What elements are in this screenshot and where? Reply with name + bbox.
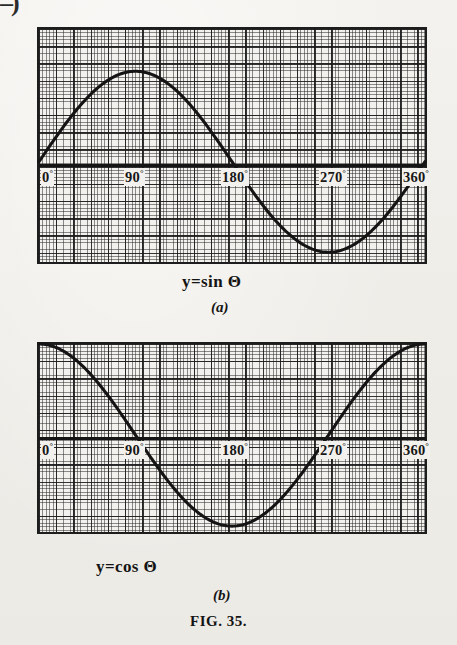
equation-caption-cosine: y=cos Θ — [96, 557, 157, 577]
tick-label-180-sine: 180° — [221, 168, 249, 186]
chart-cosine-panel: 0° 90° 180° 270° 360° — [37, 342, 427, 534]
chart-sine-panel: 0° 90° 180° 270° 360° — [37, 27, 427, 264]
tick-label-0-sine: 0° — [41, 168, 54, 186]
tick-label-360-sine: 360° — [402, 168, 430, 186]
sine-curve-layer — [39, 29, 425, 262]
tick-label-270-sine: 270° — [319, 168, 347, 186]
panel-label-b: (b) — [213, 587, 231, 604]
cosine-curve-path — [39, 344, 425, 526]
tick-label-90-sine: 90° — [124, 168, 145, 186]
page-corner-mark: –) — [0, 0, 18, 18]
x-axis-line-cosine — [39, 437, 425, 440]
tick-label-180-cosine: 180° — [221, 441, 249, 459]
tick-label-270-cosine: 270° — [319, 441, 347, 459]
tick-label-90-cosine: 90° — [124, 441, 145, 459]
x-axis-line-sine — [39, 164, 425, 167]
tick-label-0-cosine: 0° — [41, 441, 54, 459]
equation-caption-sine: y=sin Θ — [182, 272, 241, 292]
sine-curve-svg — [39, 29, 425, 262]
panel-label-a: (a) — [211, 299, 229, 316]
tick-label-360-cosine: 360° — [402, 441, 430, 459]
figure-number-caption: FIG. 35. — [190, 613, 247, 630]
sine-curve-path — [39, 71, 425, 252]
